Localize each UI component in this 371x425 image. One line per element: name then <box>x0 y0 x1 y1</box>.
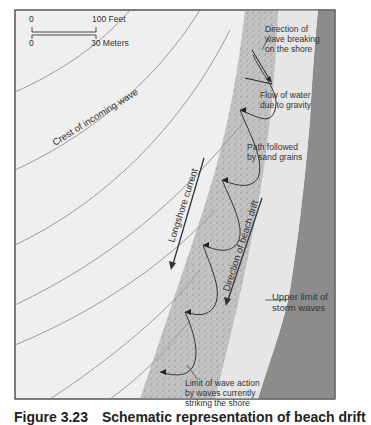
label-line: Upper limit of <box>272 291 328 302</box>
figure-number: Figure 3.23 <box>14 409 88 425</box>
label-line: on the shore <box>265 44 313 54</box>
figure-caption: Figure 3.23Schematic representation of b… <box>14 409 371 425</box>
label-line: Path followed <box>247 142 298 152</box>
label-line: Flow of water <box>260 90 311 100</box>
label-line: Limit of wave action <box>185 378 260 388</box>
label-line: by sand grains <box>247 152 302 162</box>
scale-meters-end: 30 Meters <box>91 38 129 48</box>
caption-text: Schematic representation of beach drift <box>102 409 366 425</box>
scale-feet-start: 0 <box>29 14 34 24</box>
label-line: by waves currently <box>185 388 256 398</box>
wave-action-limit-label: Limit of wave action by waves currently … <box>185 378 260 408</box>
sand-path-label: Path followed by sand grains <box>247 142 302 162</box>
scale-meters-start: 0 <box>29 38 34 48</box>
label-line: Direction of <box>265 24 309 34</box>
storm-waves-label: Upper limit of storm waves <box>272 291 328 313</box>
gravity-flow-label: Flow of water due to gravity <box>260 90 312 110</box>
label-line: wave breaking <box>264 34 320 44</box>
label-line: storm waves <box>272 302 326 313</box>
scale-feet-end: 100 Feet <box>92 14 126 24</box>
label-line: due to gravity <box>260 100 312 110</box>
